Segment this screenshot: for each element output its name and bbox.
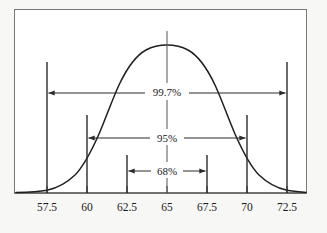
normal-distribution-figure: 99.7% 95% 68% 57.5 60 62.5 65 67.5 70 72… <box>0 0 327 233</box>
tick-label-60: 60 <box>81 201 93 213</box>
x-axis-tick-labels: 57.5 60 62.5 65 67.5 70 72.5 <box>37 201 297 213</box>
tick-label-70: 70 <box>241 201 253 213</box>
annotation-label-68: 68% <box>157 165 177 177</box>
tick-label-67-5: 67.5 <box>197 201 217 213</box>
tick-label-62-5: 62.5 <box>117 201 137 213</box>
annotation-label-997: 99.7% <box>153 86 181 98</box>
annotation-label-95: 95% <box>157 132 177 144</box>
tick-label-57-5: 57.5 <box>37 201 57 213</box>
tick-label-72-5: 72.5 <box>277 201 297 213</box>
tick-label-65: 65 <box>161 201 173 213</box>
distribution-chart-svg: 99.7% 95% 68% 57.5 60 62.5 65 67.5 70 72… <box>0 0 327 233</box>
